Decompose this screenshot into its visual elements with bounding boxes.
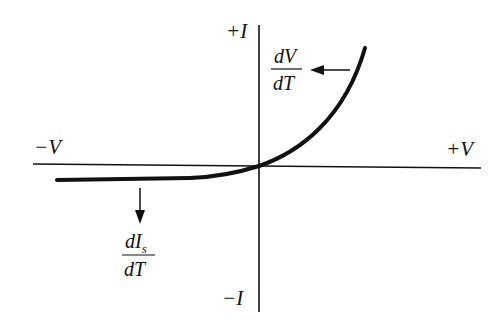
dis-numerator: dIs: [125, 230, 147, 256]
positive-voltage-label: +V: [446, 137, 475, 161]
dis-dt-fraction: dIs dT: [122, 230, 155, 280]
dt-denominator-reverse: dT: [124, 258, 147, 280]
dis-dt-arrow-icon: [135, 188, 145, 224]
dt-denominator: dT: [273, 72, 296, 94]
diode-iv-diagram: +I −I −V +V dV dT dIs dT: [0, 0, 501, 327]
negative-voltage-label: −V: [34, 135, 63, 159]
dv-dt-fraction: dV dT: [271, 45, 302, 94]
dv-dt-arrow-icon: [310, 65, 350, 75]
positive-current-label: +I: [226, 19, 248, 43]
negative-current-label: −I: [222, 286, 244, 310]
dv-numerator: dV: [274, 45, 299, 67]
